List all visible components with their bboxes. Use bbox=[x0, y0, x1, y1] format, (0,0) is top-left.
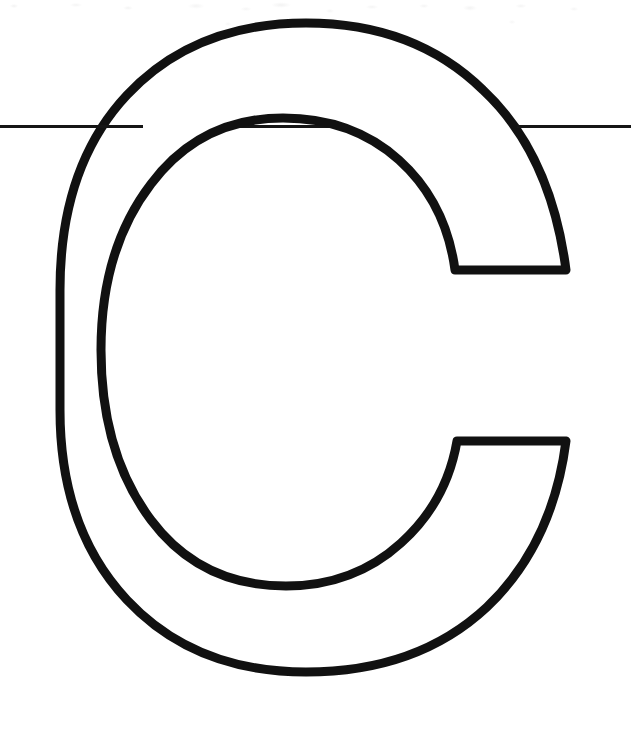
letter-c-artboard bbox=[0, 0, 631, 733]
worksheet-page bbox=[0, 0, 631, 733]
